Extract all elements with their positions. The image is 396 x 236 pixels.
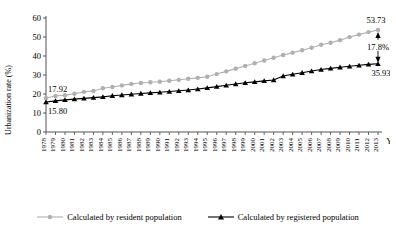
x-tick-label: 2013 [372, 138, 380, 153]
legend-label-registered: Calculated by registered population [238, 212, 359, 222]
data-point [252, 61, 256, 65]
x-tick-label: 1996 [211, 138, 219, 153]
x-tick-label: 1982 [78, 138, 86, 153]
y-tick-label: 50 [33, 32, 42, 42]
data-point [139, 81, 143, 85]
x-tick-label: 1984 [97, 138, 105, 153]
x-tick-label: 2005 [296, 138, 304, 153]
data-point [300, 48, 304, 52]
x-tick-label: 1993 [182, 138, 190, 153]
data-point [129, 82, 133, 86]
x-tick-label: 2011 [353, 138, 361, 152]
data-point [224, 69, 228, 73]
arrow-head-up-icon [375, 32, 380, 38]
annotation-start-resident: 17.92 [48, 84, 67, 94]
x-tick-label: 2000 [249, 138, 257, 153]
x-tick-label: 1980 [59, 138, 67, 153]
y-axis-title: Urbanization rate (%) [2, 40, 16, 160]
data-point [72, 91, 76, 95]
data-point [347, 35, 351, 39]
data-point [91, 89, 95, 93]
x-tick-label: 1995 [201, 138, 209, 153]
legend-item-resident[interactable]: Calculated by resident population [37, 212, 181, 222]
y-tick-label: 30 [33, 70, 42, 80]
x-tick-label: 2012 [363, 138, 371, 153]
data-point [82, 90, 86, 94]
data-point [271, 56, 275, 60]
x-axis-title: Year [386, 136, 390, 146]
x-tick-label: 1986 [116, 138, 124, 153]
x-tick-label: 1998 [230, 138, 238, 153]
y-tick-label: 40 [33, 51, 42, 61]
data-point [328, 41, 332, 45]
data-point [158, 80, 162, 84]
y-tick-label: 20 [33, 89, 42, 99]
x-tick-label: 1988 [135, 138, 143, 153]
data-point [309, 46, 313, 50]
legend-marker-circle-icon [37, 212, 63, 222]
x-tick-label: 1987 [125, 138, 133, 153]
series-line-registered [46, 64, 378, 102]
plot-area: 0102030405060197819791980198119821983198… [16, 10, 390, 178]
chart-svg: 0102030405060197819791980198119821983198… [16, 10, 390, 178]
data-point [177, 78, 181, 82]
x-tick-label: 2010 [344, 138, 352, 153]
x-tick-label: 1994 [192, 138, 200, 153]
legend-label-resident: Calculated by resident population [67, 212, 181, 222]
x-tick-label: 1991 [163, 138, 171, 153]
data-point [196, 76, 200, 80]
data-point [110, 85, 114, 89]
x-tick-label: 1992 [173, 138, 181, 153]
x-tick-label: 1983 [87, 138, 95, 153]
data-point [101, 86, 105, 90]
x-tick-label: 2003 [277, 138, 285, 153]
data-point [243, 64, 247, 68]
data-point [53, 94, 57, 98]
chart-figure: Urbanization rate (%) 010203040506019781… [0, 0, 396, 236]
x-tick-label: 1985 [106, 138, 114, 153]
x-tick-label: 1979 [49, 138, 57, 153]
x-tick-label: 2007 [315, 138, 323, 153]
data-point [366, 30, 370, 34]
annotation-start-registered: 15.80 [48, 106, 67, 116]
y-tick-label: 10 [33, 108, 42, 118]
x-tick-label: 2009 [334, 138, 342, 153]
data-point [205, 75, 209, 79]
y-tick-label: 60 [33, 13, 42, 23]
data-point [148, 80, 152, 84]
data-point [120, 83, 124, 87]
x-tick-label: 1999 [239, 138, 247, 153]
x-tick-label: 2004 [287, 138, 295, 153]
x-tick-label: 1997 [220, 138, 228, 153]
data-point [167, 79, 171, 83]
data-point [215, 72, 219, 76]
x-tick-label: 2001 [258, 138, 266, 153]
x-tick-label: 2006 [306, 138, 314, 153]
x-tick-label: 2002 [268, 138, 276, 153]
data-point [290, 50, 294, 54]
annotation-end-registered: 35.93 [371, 68, 390, 78]
data-point [319, 43, 323, 47]
x-tick-label: 2008 [325, 138, 333, 153]
x-tick-label: 1990 [154, 138, 162, 153]
annotation-gap: 17.8% [367, 42, 389, 52]
arrow-head-down-icon [375, 57, 380, 63]
data-point [281, 53, 285, 57]
x-tick-label: 1989 [144, 138, 152, 153]
legend-marker-triangle-icon [208, 212, 234, 222]
data-point [338, 38, 342, 42]
data-point [262, 58, 266, 62]
data-point [234, 66, 238, 70]
annotation-end-resident: 53.73 [366, 15, 385, 25]
x-tick-label: 1981 [68, 138, 76, 153]
legend-item-registered[interactable]: Calculated by registered population [208, 212, 359, 222]
x-tick-label: 1978 [40, 138, 48, 153]
data-point [357, 32, 361, 36]
data-point [186, 77, 190, 81]
data-point [376, 28, 380, 32]
y-tick-label: 0 [37, 127, 41, 137]
chart-legend: Calculated by resident population Calcul… [0, 205, 396, 229]
